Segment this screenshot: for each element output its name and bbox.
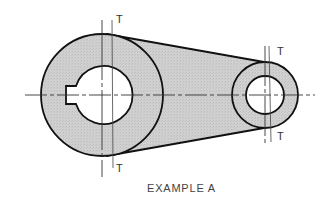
figure-caption: EXAMPLE A — [147, 182, 216, 194]
lever-arm-drawing: T T T T EXAMPLE A — [0, 0, 332, 202]
tangent-label-small-bottom: T — [277, 130, 284, 142]
tangent-label-large-bottom: T — [116, 162, 123, 174]
tangent-label-large-top: T — [116, 13, 123, 25]
tangent-label-small-top: T — [277, 45, 284, 57]
